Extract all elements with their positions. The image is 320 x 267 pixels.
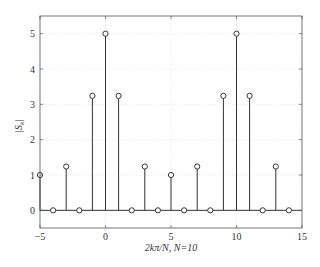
stem-marker: [103, 31, 108, 36]
stem-marker: [155, 208, 160, 213]
y-axis-label-end: |: [13, 119, 24, 122]
stem-marker: [247, 93, 252, 98]
y-axis-label-main: |S: [13, 125, 24, 133]
x-tick-label: 15: [297, 231, 307, 242]
x-tick-label: 5: [169, 231, 174, 242]
stem-marker: [286, 208, 291, 213]
x-tick-label: 10: [232, 231, 242, 242]
stem-marker: [234, 31, 239, 36]
stem-marker: [77, 208, 82, 213]
x-tick-label: 0: [103, 231, 108, 242]
stem-series: [37, 31, 302, 213]
stem-marker: [182, 208, 187, 213]
stem-marker: [260, 208, 265, 213]
y-tick-label: 1: [30, 170, 35, 181]
stem-marker: [221, 93, 226, 98]
y-tick-label: 2: [30, 134, 35, 145]
stem-marker: [208, 208, 213, 213]
stem-marker: [168, 172, 173, 177]
x-axis-label-main: 2kπ/N,: [145, 242, 171, 253]
stem-marker: [129, 208, 134, 213]
x-tick-label: −5: [35, 231, 46, 242]
stem-marker: [116, 93, 121, 98]
y-tick-label: 0: [30, 205, 35, 216]
y-tick-label: 3: [30, 99, 35, 110]
stem-marker: [90, 93, 95, 98]
stem-marker: [64, 164, 69, 169]
x-axis-label-n: N=10: [171, 242, 197, 253]
stem-marker: [142, 164, 147, 169]
stem-marker: [273, 164, 278, 169]
stem-marker: [195, 164, 200, 169]
stem-marker: [51, 208, 56, 213]
stem-chart: −5051015012345 2kπ/N, N=10 |Sk|: [0, 0, 320, 267]
y-axis-label: |Sk|: [13, 119, 26, 133]
y-tick-label: 4: [30, 64, 35, 75]
y-tick-label: 5: [30, 28, 35, 39]
x-axis-label: 2kπ/N, N=10: [145, 242, 197, 253]
